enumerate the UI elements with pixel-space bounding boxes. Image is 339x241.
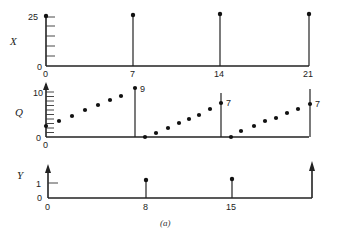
time-tick-14: 14 [214, 69, 224, 79]
q-dots-segment-2 [143, 101, 223, 139]
x-panel-label: X [9, 35, 18, 47]
x-stem-dot-21 [307, 12, 311, 16]
time-tick-0: 0 [43, 69, 48, 79]
figure-caption: (a) [160, 218, 171, 228]
q-ytick-10: 10 [33, 88, 43, 98]
y-time-tick-15: 15 [226, 202, 236, 212]
q-panel: Q 10 0 0 [15, 82, 320, 150]
x-ytick-0: 0 [37, 62, 42, 72]
y-ytick-1: 1 [36, 179, 41, 189]
x-yticks [46, 17, 55, 56]
y-stem-dot-8 [144, 178, 148, 182]
x-ytick-25: 25 [28, 12, 38, 22]
q-dots-segment-1 [44, 86, 137, 128]
q-dots-segment-3 [229, 102, 312, 139]
y-time-tick-8: 8 [143, 202, 148, 212]
y-impulse-arrow-icon [309, 161, 315, 171]
x-stem-dot-7 [131, 13, 135, 17]
y-stem-dot-15 [230, 177, 234, 181]
q-annotation-7b: 7 [315, 99, 320, 109]
y-axis-arrow-icon [45, 164, 51, 173]
y-panel-label: Y [17, 169, 25, 181]
diagram-canvas: X 25 0 0 7 14 21 Q 10 0 0 [0, 0, 339, 241]
x-panel: X 25 0 0 7 14 21 [9, 12, 313, 79]
x-stem-dot-14 [218, 12, 222, 16]
x-stem-dot-0 [44, 14, 48, 18]
time-tick-7: 7 [130, 69, 135, 79]
y-time-tick-0: 0 [45, 202, 50, 212]
y-panel: Y 1 0 0 8 15 [17, 161, 315, 212]
q-time-tick-0: 0 [43, 140, 48, 150]
y-ytick-0: 0 [37, 193, 42, 203]
q-annotation-9: 9 [140, 84, 145, 94]
q-panel-label: Q [15, 106, 23, 118]
q-ytick-0: 0 [36, 133, 41, 143]
time-tick-21: 21 [303, 69, 313, 79]
q-annotation-7a: 7 [226, 98, 231, 108]
q-axis-arrow-icon [43, 82, 49, 90]
